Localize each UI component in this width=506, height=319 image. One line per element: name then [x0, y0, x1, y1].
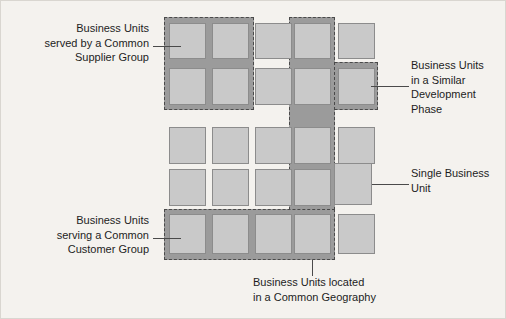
business-unit-box[interactable] — [169, 23, 206, 59]
business-unit-box[interactable] — [294, 23, 331, 59]
business-unit-box[interactable] — [338, 214, 375, 254]
leader-line-common-geography — [312, 260, 313, 276]
business-unit-box[interactable] — [338, 68, 375, 105]
business-unit-box[interactable] — [294, 214, 331, 254]
business-unit-box[interactable] — [255, 214, 292, 254]
leader-line-customer-group — [153, 238, 181, 239]
callout-customer-group: Business Units serving a Common Customer… — [19, 213, 149, 257]
business-unit-box[interactable] — [294, 169, 331, 206]
business-unit-box[interactable] — [169, 214, 206, 254]
callout-common-geography: Business Units located in a Common Geogr… — [253, 275, 413, 304]
business-unit-box[interactable] — [212, 169, 249, 206]
diagram-page: Business Units served by a Common Suppli… — [0, 0, 506, 319]
business-unit-box[interactable] — [294, 68, 331, 105]
business-unit-box[interactable] — [169, 68, 206, 105]
business-unit-box[interactable] — [212, 214, 249, 254]
business-unit-box[interactable] — [338, 127, 375, 164]
callout-supplier-group: Business Units served by a Common Suppli… — [19, 21, 149, 65]
business-unit-box[interactable] — [212, 23, 249, 59]
leader-line-development-phase — [371, 86, 409, 87]
leader-line-supplier-group — [153, 46, 181, 47]
business-unit-box[interactable] — [255, 68, 292, 105]
business-unit-box[interactable] — [255, 169, 292, 206]
business-unit-box[interactable] — [294, 127, 331, 164]
business-unit-box[interactable] — [169, 127, 206, 164]
callout-single-business-unit: Single Business Unit — [411, 166, 506, 195]
business-unit-box[interactable] — [255, 127, 292, 164]
business-unit-box[interactable] — [255, 23, 292, 59]
business-unit-box[interactable] — [338, 23, 375, 59]
callout-development-phase: Business Units in a Similar Development … — [411, 58, 506, 116]
leader-line-single-business-unit — [372, 184, 409, 185]
business-unit-box-single[interactable] — [334, 163, 372, 205]
business-unit-box[interactable] — [169, 169, 206, 206]
business-unit-box[interactable] — [212, 68, 249, 105]
business-unit-box[interactable] — [212, 127, 249, 164]
